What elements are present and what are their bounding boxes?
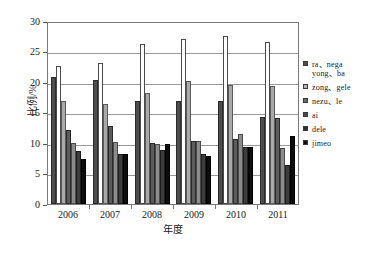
y-axis-title: 比例/% xyxy=(27,61,38,141)
bar xyxy=(206,156,211,204)
bar xyxy=(81,159,86,204)
bar-chart: 30 25 20 15 10 5 0 比例/% 2006 2007 2008 2… xyxy=(0,0,388,266)
legend-item[interactable]: ra、nega yong、ba xyxy=(303,60,388,78)
bar xyxy=(123,154,128,204)
x-tick-label-2010: 2010 xyxy=(214,209,258,220)
legend-item-label: dele xyxy=(312,125,326,134)
x-tick-label-2007: 2007 xyxy=(88,209,132,220)
bar-group-2007 xyxy=(93,23,128,204)
legend-swatch-icon xyxy=(303,61,308,66)
y-tick-label-0: 0 xyxy=(14,200,40,210)
legend-item[interactable]: nezu、le xyxy=(303,97,388,106)
y-tick-label-30: 30 xyxy=(14,17,40,27)
legend-item-label: ai xyxy=(312,111,318,120)
legend-item-label: nezu、le xyxy=(312,97,342,106)
legend-item-label: jimeo xyxy=(312,139,331,148)
bar-groups xyxy=(48,23,298,204)
legend-swatch-icon xyxy=(303,112,308,117)
y-tick-label-10: 10 xyxy=(14,139,40,149)
x-tick-label-2009: 2009 xyxy=(172,209,216,220)
legend-swatch-icon xyxy=(303,126,308,131)
y-tick-label-5: 5 xyxy=(14,169,40,179)
legend-swatch-icon xyxy=(303,140,308,145)
x-axis-title: 年度 xyxy=(47,224,299,235)
bar xyxy=(248,147,253,204)
bar-group-2008 xyxy=(135,23,170,204)
bar xyxy=(290,136,295,204)
chart-legend: ra、nega yong、bazong、gelenezu、leaidelejim… xyxy=(303,60,388,153)
legend-item[interactable]: jimeo xyxy=(303,139,388,148)
bar-group-2011 xyxy=(260,23,295,204)
bar-group-2006 xyxy=(51,23,86,204)
y-tick-mark xyxy=(43,205,47,206)
x-tick-label-2011: 2011 xyxy=(256,209,300,220)
legend-item[interactable]: dele xyxy=(303,125,388,134)
legend-item-label: ra、nega yong、ba xyxy=(312,60,345,78)
plot-area xyxy=(47,22,299,205)
bar-group-2010 xyxy=(218,23,253,204)
x-tick-label-2006: 2006 xyxy=(46,209,90,220)
y-tick-label-25: 25 xyxy=(14,47,40,57)
bar-group-2009 xyxy=(176,23,211,204)
legend-item-label: zong、gele xyxy=(312,83,351,92)
legend-swatch-icon xyxy=(303,98,308,103)
x-tick-label-2008: 2008 xyxy=(130,209,174,220)
legend-item[interactable]: ai xyxy=(303,111,388,120)
legend-swatch-icon xyxy=(303,84,308,89)
legend-item[interactable]: zong、gele xyxy=(303,83,388,92)
bar xyxy=(165,144,170,204)
